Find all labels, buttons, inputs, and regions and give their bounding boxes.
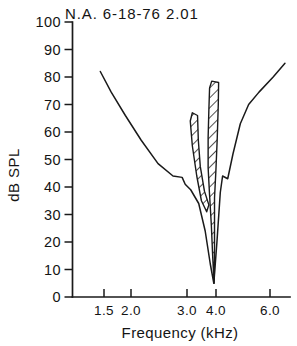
y-axis: 100 90 80 70 60 50 40 30 20 10 0 dB SPL — [5, 14, 73, 305]
tuning-curve-plot: N.A. 6-18-76 2.01 100 90 80 — [0, 0, 297, 346]
x-tick-label-3-0: 3.0 — [177, 303, 197, 318]
x-tick-label-1-5: 1.5 — [94, 303, 114, 318]
y-tick-label-90: 90 — [44, 42, 61, 58]
data-layer — [100, 63, 285, 283]
y-tick-label-0: 0 — [53, 289, 61, 305]
tuning-curve-figure: N.A. 6-18-76 2.01 100 90 80 — [0, 0, 297, 346]
x-axis-ticks — [104, 289, 270, 297]
x-tick-label-4-0: 4.0 — [206, 303, 226, 318]
x-axis: 1.5 2.0 3.0 4.0 6.0 Frequency (kHz) — [73, 289, 291, 341]
y-tick-label-40: 40 — [44, 179, 61, 195]
y-tick-label-50: 50 — [44, 152, 61, 168]
y-axis-tick-labels: 100 90 80 70 60 50 40 30 20 10 0 — [36, 14, 61, 305]
x-axis-title: Frequency (kHz) — [122, 324, 239, 341]
y-axis-ticks — [65, 22, 73, 297]
y-tick-label-20: 20 — [44, 234, 61, 250]
y-tick-label-100: 100 — [36, 14, 61, 30]
y-tick-label-80: 80 — [44, 69, 61, 85]
suppression-region-right-finger-and-spike — [208, 81, 218, 283]
y-tick-label-10: 10 — [44, 262, 61, 278]
y-tick-label-70: 70 — [44, 97, 61, 113]
x-tick-label-2-0: 2.0 — [121, 303, 141, 318]
y-tick-label-60: 60 — [44, 124, 61, 140]
threshold-tuning-curve — [100, 63, 285, 283]
x-axis-tick-labels: 1.5 2.0 3.0 4.0 6.0 — [94, 303, 280, 318]
y-tick-label-30: 30 — [44, 207, 61, 223]
y-axis-title: dB SPL — [5, 148, 22, 201]
chart-title: N.A. 6-18-76 2.01 — [65, 5, 199, 22]
x-tick-label-6-0: 6.0 — [260, 303, 280, 318]
